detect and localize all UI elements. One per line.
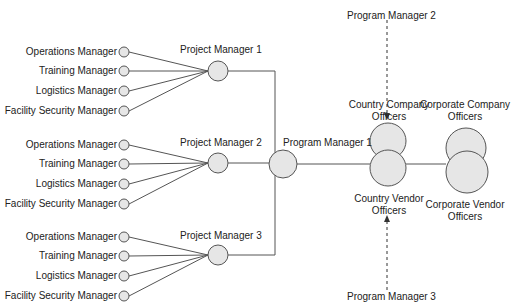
corporate-company-label: Corporate CompanyOfficers <box>410 99 517 123</box>
member-label: Operations Manager <box>26 46 117 58</box>
project-manager-label: Project Manager 2 <box>180 137 262 149</box>
member-label: Training Manager <box>39 65 117 77</box>
project-manager-label: Project Manager 3 <box>180 230 262 242</box>
member-label: Facility Security Manager <box>5 198 117 210</box>
corporate-vendor-label: Corporate VendorOfficers <box>410 199 517 223</box>
member-label: Logistics Manager <box>36 270 117 282</box>
member-label: Logistics Manager <box>36 85 117 97</box>
member-label: Operations Manager <box>26 231 117 243</box>
member-label: Training Manager <box>39 158 117 170</box>
member-label: Logistics Manager <box>36 178 117 190</box>
program-manager-2-label: Program Manager 2 <box>347 10 436 22</box>
member-label: Training Manager <box>39 250 117 262</box>
member-label: Operations Manager <box>26 139 117 151</box>
program-manager-1-label: Program Manager 1 <box>283 137 372 149</box>
member-label: Facility Security Manager <box>5 105 117 117</box>
member-label: Facility Security Manager <box>5 290 117 302</box>
program-manager-3-label: Program Manager 3 <box>347 291 436 303</box>
project-manager-label: Project Manager 1 <box>180 44 262 56</box>
